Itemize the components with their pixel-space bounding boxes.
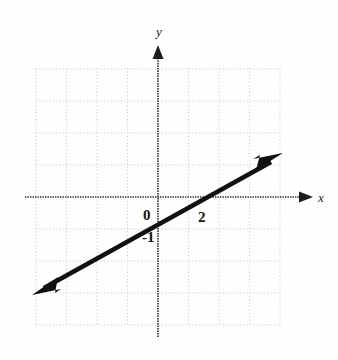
origin-tick-label: 0: [143, 207, 151, 223]
y-axis-arrowhead-icon: [153, 45, 164, 59]
y-tick-label-neg1: -1: [142, 229, 155, 245]
x-tick-label-2: 2: [198, 209, 206, 225]
y-axis-label: y: [154, 24, 162, 39]
line-arrowhead-right-icon: [253, 153, 283, 170]
coordinate-plane-svg: y x 0 2 -1: [0, 0, 338, 360]
x-axis-label: x: [317, 190, 324, 205]
graph-figure: y x 0 2 -1: [0, 0, 338, 360]
x-axis-arrowhead-icon: [299, 192, 313, 203]
x-axis-group: [25, 192, 313, 203]
